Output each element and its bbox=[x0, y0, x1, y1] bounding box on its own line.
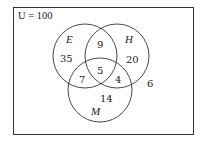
region-m-only: 14 bbox=[100, 93, 113, 104]
universe-label: U = 100 bbox=[18, 10, 53, 21]
region-e-h-only: 9 bbox=[97, 39, 103, 50]
region-h-m-only: 4 bbox=[115, 74, 121, 85]
venn-diagram: U = 100 E H M 35 9 20 5 7 4 6 14 bbox=[0, 0, 204, 144]
region-e-only: 35 bbox=[60, 53, 73, 64]
set-h-label: H bbox=[124, 33, 134, 45]
set-m-label: M bbox=[90, 105, 101, 117]
region-h-only: 20 bbox=[126, 54, 139, 65]
region-e-m-only: 7 bbox=[79, 74, 85, 85]
region-e-h-m: 5 bbox=[97, 65, 103, 76]
region-outside: 6 bbox=[147, 78, 153, 89]
set-e-label: E bbox=[65, 33, 73, 45]
